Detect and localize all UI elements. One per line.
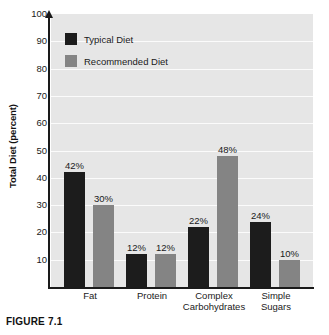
figure-caption: FIGURE 7.1 — [6, 316, 62, 327]
bar-group-simple-sugars: 24% 10% — [250, 14, 305, 287]
bar-carbs-typical[interactable]: 22% — [188, 227, 209, 287]
y-tick-90: 90 — [21, 35, 47, 46]
bar-carbs-recommended[interactable]: 48% — [217, 156, 238, 287]
bar-value-label: 42% — [65, 160, 84, 171]
y-tick-60: 60 — [21, 117, 47, 128]
bar-sugars-recommended[interactable]: 10% — [279, 260, 300, 287]
bar-value-label: 48% — [218, 144, 237, 155]
x-axis-line — [48, 287, 314, 289]
y-tick-10: 10 — [21, 254, 47, 265]
x-category-label-simple-sugars: Simple Sugars — [236, 291, 316, 312]
y-tick-40: 40 — [21, 172, 47, 183]
bar-value-label: 12% — [156, 242, 175, 253]
legend-swatch-icon — [65, 55, 77, 67]
y-axis-line — [48, 17, 50, 289]
y-tick-80: 80 — [21, 63, 47, 74]
bar-protein-recommended[interactable]: 12% — [155, 254, 176, 287]
y-tick-70: 70 — [21, 90, 47, 101]
bar-protein-typical[interactable]: 12% — [126, 254, 147, 287]
y-tick-50: 50 — [21, 145, 47, 156]
legend-label: Typical Diet — [84, 34, 133, 45]
bar-fat-typical[interactable]: 42% — [64, 172, 85, 287]
bar-value-label: 24% — [251, 210, 270, 221]
y-tick-20: 20 — [21, 226, 47, 237]
y-axis-ticks: 100 90 80 70 60 50 40 30 20 10 — [19, 0, 47, 300]
legend-swatch-icon — [65, 33, 77, 45]
bar-sugars-typical[interactable]: 24% — [250, 222, 271, 288]
legend-item-typical-diet[interactable]: Typical Diet — [65, 33, 168, 45]
legend-item-recommended-diet[interactable]: Recommended Diet — [65, 55, 168, 67]
y-tick-100: 100 — [21, 8, 47, 19]
bar-value-label: 10% — [280, 248, 299, 259]
figure-container: Total Diet (percent) 42% 30% 12% 12% — [0, 0, 329, 335]
bar-fat-recommended[interactable]: 30% — [93, 205, 114, 287]
legend-label: Recommended Diet — [84, 56, 168, 67]
bar-value-label: 30% — [94, 193, 113, 204]
bar-value-label: 12% — [127, 242, 146, 253]
bar-value-label: 22% — [189, 215, 208, 226]
bar-group-complex-carbohydrates: 22% 48% — [188, 14, 243, 287]
y-tick-30: 30 — [21, 199, 47, 210]
chart-legend: Typical Diet Recommended Diet — [65, 33, 168, 77]
